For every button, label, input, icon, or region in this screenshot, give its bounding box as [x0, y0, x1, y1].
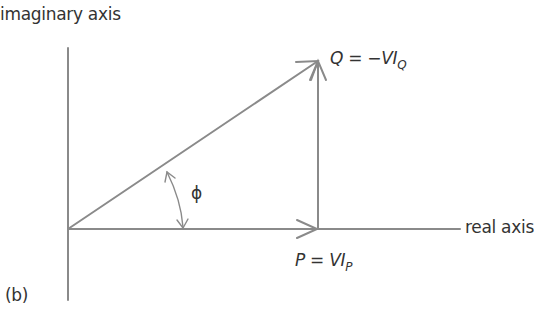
reactive-expression: −VI [367, 48, 397, 68]
real-expression: VI [329, 250, 345, 270]
apparent-power-vector [68, 61, 318, 229]
real-power-label: P = VIP [295, 250, 352, 270]
phasor-diagram [0, 0, 534, 314]
real-equals: = [310, 250, 324, 270]
reactive-power-label: Q = −VIQ [330, 48, 406, 68]
imaginary-axis-label: imaginary axis [0, 4, 121, 24]
reactive-symbol: Q [330, 48, 343, 68]
panel-label: (b) [5, 285, 28, 305]
reactive-subscript: Q [397, 58, 406, 72]
angle-arc [167, 172, 183, 227]
reactive-equals: = [348, 48, 362, 68]
real-symbol: P [295, 250, 305, 270]
real-subscript: P [345, 260, 352, 274]
angle-label: ϕ [191, 183, 202, 203]
real-axis-label: real axis [465, 217, 534, 237]
